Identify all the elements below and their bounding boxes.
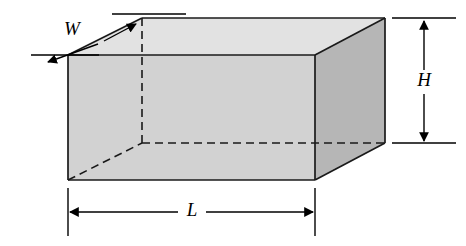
box-diagram-svg: W H L — [0, 0, 466, 246]
length-label: L — [186, 199, 198, 220]
height-label: H — [416, 69, 432, 90]
height-dimension: H — [392, 18, 456, 143]
width-label: W — [64, 18, 82, 39]
diagram-canvas: W H L — [0, 0, 466, 246]
length-dimension: L — [68, 188, 315, 236]
